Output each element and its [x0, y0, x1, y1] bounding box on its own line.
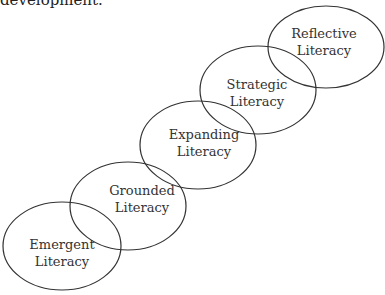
stage-label-expanding: Expanding Literacy: [164, 126, 244, 160]
stage-label-grounded: Grounded Literacy: [102, 182, 182, 216]
stage-label-strategic: Strategic Literacy: [217, 76, 297, 110]
stage-label-emergent: Emergent Literacy: [22, 236, 102, 270]
stage-label-reflective: Reflective Literacy: [284, 25, 364, 59]
